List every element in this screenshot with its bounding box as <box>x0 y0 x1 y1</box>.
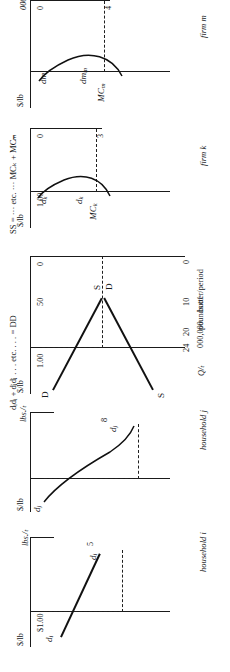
demand-label-di-left-text: d <box>44 637 54 642</box>
figure-canvas: $/lb $1.00 5 lbs./ₜ di di household i $/… <box>0 0 230 672</box>
panel-caption-household-i: household i <box>198 532 208 572</box>
demand-label-dj-left-text: d <box>32 507 42 512</box>
x-tick-4: 4 <box>104 6 113 10</box>
demand-label-di-left-sub: i <box>47 636 54 638</box>
x-axis <box>30 256 31 394</box>
x-tick-24: 24 <box>182 344 191 352</box>
x-tick-10: 10 <box>182 298 191 306</box>
supply-label-S-bottom: S <box>92 285 102 290</box>
d-label-dk-upper: dk <box>74 196 84 204</box>
y-tick-1-00: 1.00 <box>36 353 45 368</box>
x-tick-0: 0 <box>36 6 45 10</box>
demand-curve-DD <box>52 298 102 391</box>
x-axis-end-stub <box>30 0 110 1</box>
y-tick-1-00: $1.00 <box>36 613 45 632</box>
demand-curve-di <box>60 553 100 637</box>
equilibrium-quantity-line <box>102 256 103 348</box>
panel-household-i: $/lb $1.00 5 lbs./ₜ di di household i <box>0 534 230 672</box>
x-tick-3: 3 <box>96 134 105 138</box>
demand-summation-note: dᵢdᵢ + dⱼdⱼ . . . etc. . . . = DD <box>8 315 18 410</box>
d-label-dk-lower: dk <box>38 196 48 204</box>
x-tick-0: 0 <box>182 260 191 264</box>
x-axis <box>30 0 31 108</box>
panel-caption-firm-k: firm k <box>198 146 208 166</box>
mc-label-mck-text: MC <box>88 206 98 220</box>
demand-label-di-right: di <box>88 554 98 560</box>
d-label-dk-upper-sub: k <box>77 196 84 199</box>
x-axis-label: Q/ₜ <box>196 366 206 376</box>
equilibrium-price-line <box>42 347 102 348</box>
y-axis-label: $/lb <box>16 633 25 646</box>
d-label-dm-lower: dm <box>38 73 48 84</box>
quantity-guide-line <box>122 550 123 612</box>
x-tick-5: 5 <box>86 542 95 546</box>
d-label-dmm-upper: dmm <box>78 68 88 84</box>
panel-caption-firm-m: firm m <box>198 15 208 38</box>
quantity-guide-line <box>138 424 139 479</box>
panel-firm-m: $/lb 0 4 000 lbs./ₜ MCm dmm dm firm m <box>0 0 230 130</box>
demand-label-di-right-text: d <box>88 555 98 560</box>
demand-label-D-bottom: D <box>104 283 114 290</box>
mc-label-mcm: MCm <box>96 83 106 102</box>
demand-label-di-right-sub: i <box>91 554 98 556</box>
d-label-dk-lower-sub: k <box>41 196 48 199</box>
x-axis <box>30 537 31 647</box>
x-tick-0: 0 <box>36 134 45 138</box>
quantity-axis <box>30 256 185 257</box>
mc-label-mck-sub: k <box>91 203 98 206</box>
d-label-dmm-upper-text: dm <box>78 73 88 84</box>
x-axis <box>30 128 31 228</box>
d-label-dk-upper-text: d <box>74 199 84 204</box>
x-axis-sublabel-3: butter/period <box>196 269 205 312</box>
mc-label-mcm-text: MC <box>96 88 106 102</box>
price-guide-line <box>44 611 122 612</box>
x-axis-end-stub <box>30 537 54 538</box>
demand-label-dj-right-text: d <box>108 427 118 432</box>
panel-firm-k: $/lb 1.00 0 3 MCk dk dk firm k <box>0 130 230 250</box>
supply-curve-SS <box>103 298 153 391</box>
demand-label-dj-right-sub: j <box>111 426 118 428</box>
supply-label-S-top: S <box>156 393 166 398</box>
x-axis <box>30 412 31 512</box>
demand-label-dj-left-sub: j <box>35 506 42 508</box>
d-label-dmm-upper-sub: m <box>81 68 88 73</box>
y-tick-50: 50 <box>36 298 45 306</box>
d-label-dk-lower-text: d <box>38 199 48 204</box>
supply-summation-note: SS = ··· etc. ··· MCₖ + MCₘ <box>8 134 18 234</box>
demand-label-dj-right: dj <box>108 426 118 432</box>
panel-household-j: $/lb 8 lbs./ₜ dj dj household j <box>0 416 230 534</box>
demand-label-dj-left: dj <box>32 506 42 512</box>
mc-label-mcm-sub: m <box>99 83 106 88</box>
demand-label-D-top: D <box>40 391 50 398</box>
x-tick-20: 20 <box>182 328 191 336</box>
panel-market: $/lb 1.00 50 0 0 10 20 24 Q/ₜ 000,000 po… <box>0 250 230 416</box>
demand-label-di-left: di <box>44 636 54 642</box>
panel-caption-household-j: household j <box>198 410 208 450</box>
demand-curve-dj <box>36 420 136 506</box>
mc-label-mck: MCk <box>88 203 98 220</box>
x-axis-label: 000 lbs./ₜ <box>18 0 28 10</box>
y-axis-label: $/lb <box>16 94 25 107</box>
y-tick-0: 0 <box>36 262 45 266</box>
y-axis-label: $/lb <box>16 498 25 511</box>
